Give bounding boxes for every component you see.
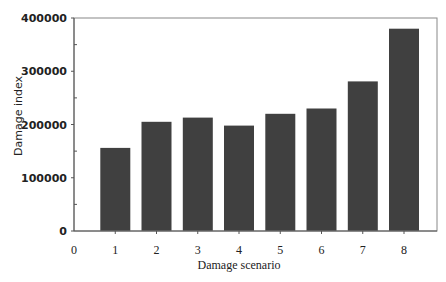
y-tick-label: 400000 bbox=[21, 12, 67, 25]
x-tick-label: 6 bbox=[319, 243, 325, 257]
x-ticks: 012345678 bbox=[71, 231, 407, 257]
x-tick-label: 7 bbox=[360, 243, 366, 257]
y-tick-label: 100000 bbox=[21, 172, 67, 185]
x-tick-label: 5 bbox=[277, 243, 283, 257]
x-tick-label: 2 bbox=[154, 243, 160, 257]
x-tick-label: 0 bbox=[71, 243, 77, 257]
y-tick-label: 200000 bbox=[21, 119, 67, 132]
bar-6 bbox=[307, 109, 337, 232]
bar-5 bbox=[265, 114, 295, 231]
y-tick-label: 300000 bbox=[21, 65, 67, 78]
chart-canvas: 0100000200000300000400000 012345678 Dama… bbox=[0, 0, 446, 282]
y-ticks: 0100000200000300000400000 bbox=[21, 12, 77, 238]
bar-2 bbox=[142, 122, 172, 231]
bar-chart: 0100000200000300000400000 012345678 Dama… bbox=[0, 0, 446, 282]
x-tick-label: 8 bbox=[401, 243, 407, 257]
x-tick-label: 3 bbox=[195, 243, 201, 257]
y-axis-label: Damage index bbox=[12, 76, 25, 156]
bar-4 bbox=[224, 126, 254, 231]
y-tick-label: 0 bbox=[59, 225, 67, 238]
x-tick-label: 1 bbox=[112, 243, 118, 257]
bar-3 bbox=[183, 118, 213, 231]
bar-1 bbox=[100, 148, 130, 231]
bar-series bbox=[100, 29, 419, 231]
bar-8 bbox=[389, 29, 419, 231]
x-tick-label: 4 bbox=[236, 243, 242, 257]
x-axis-label: Damage scenario bbox=[198, 258, 281, 272]
bar-7 bbox=[348, 81, 378, 231]
